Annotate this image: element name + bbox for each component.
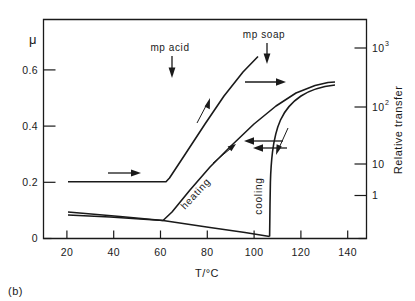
left-tick-0_6: 0.6 xyxy=(22,64,38,76)
right-axis-tick-labels: 10 3 10 2 10 1 xyxy=(372,40,389,201)
x-tick-140: 140 xyxy=(338,246,357,258)
x-axis-title: T/°C xyxy=(195,267,219,279)
curve-heating-upper xyxy=(68,57,258,182)
left-tick-0_4: 0.4 xyxy=(22,120,38,132)
direction-arrow-middle-heating xyxy=(213,144,236,163)
mp-acid-label: mp acid xyxy=(150,42,189,53)
mp-soap-label: mp soap xyxy=(243,29,286,40)
figure-panel-b: 0 0.2 0.4 0.6 μ 20 40 60 80 100 120 140 … xyxy=(0,0,415,301)
x-tick-80: 80 xyxy=(201,246,213,258)
left-axis-title: μ xyxy=(29,32,37,47)
pointer-upper-to-right-axis xyxy=(245,78,286,86)
right-tick-100-exp: 2 xyxy=(385,99,389,106)
bottom-axis-ticks xyxy=(67,231,348,239)
left-tick-0: 0 xyxy=(32,232,38,244)
panel-label-text: (b) xyxy=(8,285,23,297)
chart-canvas: 0 0.2 0.4 0.6 μ 20 40 60 80 100 120 140 … xyxy=(0,0,415,301)
bottom-axis-tick-labels: 20 40 60 80 100 120 140 xyxy=(61,246,357,258)
curve-label-cooling: cooling xyxy=(253,177,264,214)
right-axis-ticks xyxy=(355,48,367,239)
left-axis-tick-labels: 0 0.2 0.4 0.6 xyxy=(22,64,38,244)
right-tick-100-base: 10 xyxy=(372,101,384,113)
right-tick-1000-base: 10 xyxy=(372,42,384,54)
marker-mp-soap: mp soap xyxy=(243,29,286,64)
right-tick-100: 10 2 xyxy=(372,99,389,113)
panel-label: (b) xyxy=(8,281,23,299)
pointer-plateau-right xyxy=(108,169,141,176)
x-tick-100: 100 xyxy=(245,246,264,258)
x-tick-40: 40 xyxy=(107,246,119,258)
marker-mp-acid: mp acid xyxy=(150,42,189,78)
pointer-middle-to-left-axis xyxy=(244,137,283,145)
x-tick-120: 120 xyxy=(292,246,311,258)
pointer-cooling-to-left-axis xyxy=(253,144,287,152)
right-axis-title: Relative transfer xyxy=(392,86,404,175)
right-tick-1000: 10 3 xyxy=(372,40,389,54)
mp-acid-arrowhead xyxy=(169,68,176,79)
right-tick-1: 1 xyxy=(372,189,378,201)
left-tick-0_2: 0.2 xyxy=(22,176,38,188)
curve-cooling xyxy=(270,85,335,237)
curve-label-heating: heating xyxy=(178,176,212,212)
x-tick-60: 60 xyxy=(154,246,166,258)
plot-frame xyxy=(44,20,367,239)
curve-heating-lower xyxy=(68,82,335,221)
right-tick-10: 10 xyxy=(372,158,384,170)
left-axis-ticks xyxy=(44,70,56,239)
x-tick-20: 20 xyxy=(61,246,73,258)
right-tick-1000-exp: 3 xyxy=(385,40,389,47)
mp-soap-arrowhead xyxy=(264,54,271,65)
